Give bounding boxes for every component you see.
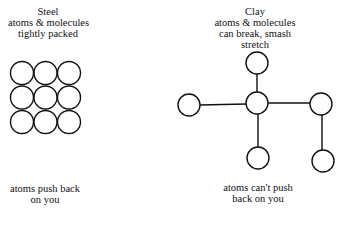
- clay-atom-bottom-center: [247, 147, 269, 169]
- clay-caption: atoms can't push back on you: [215, 182, 301, 204]
- clay-atom-right: [310, 93, 332, 115]
- steel-atom: [58, 62, 81, 85]
- steel-atom: [11, 86, 34, 109]
- clay-atom-top: [246, 52, 268, 74]
- steel-caption-line2: on you: [8, 194, 82, 205]
- clay-atom-center: [246, 92, 268, 114]
- steel-caption: atoms push back on you: [8, 183, 82, 205]
- steel-atom: [11, 111, 34, 134]
- steel-atom: [11, 62, 34, 85]
- steel-atom: [34, 111, 57, 134]
- steel-atom: [34, 62, 57, 85]
- clay-caption-line2: back on you: [215, 193, 301, 204]
- clay-molecule: [178, 52, 334, 172]
- steel-atom: [58, 86, 81, 109]
- steel-atom: [58, 111, 81, 134]
- clay-atom-left: [178, 94, 200, 116]
- steel-atom: [34, 86, 57, 109]
- clay-caption-line1: atoms can't push: [215, 182, 301, 193]
- steel-caption-line1: atoms push back: [8, 183, 82, 194]
- steel-atom-grid: [11, 62, 81, 134]
- clay-atom-bottom-right: [312, 150, 334, 172]
- clay-bond: [200, 104, 246, 105]
